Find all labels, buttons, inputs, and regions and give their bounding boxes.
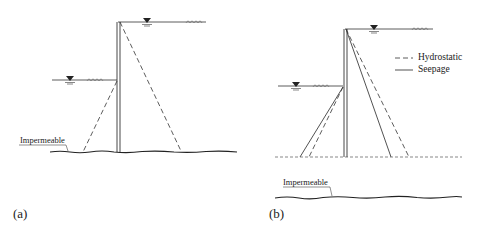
hydrostatic-line-upstream-b — [346, 29, 409, 157]
panel-caption-a: (a) — [13, 207, 27, 220]
seepage-line-upstream-b — [346, 29, 391, 157]
sheet-pile-wall-b — [344, 29, 347, 157]
sheet-pile-wall-a — [117, 22, 120, 152]
impermeable-label-a: Impermeable — [20, 136, 65, 145]
impermeable-leader-a — [19, 145, 68, 151]
impermeable-boundary-a — [50, 151, 237, 153]
legend-hydrostatic-label: Hydrostatic — [418, 53, 462, 63]
hydrostatic-line-upstream-a — [120, 22, 181, 151]
hydrostatic-line-downstream-a — [83, 81, 117, 152]
impermeable-label-b: Impermeable — [283, 178, 328, 187]
hydrostatic-line-downstream-b — [309, 87, 343, 157]
seepage-line-downstream-b — [300, 87, 343, 157]
panel-a — [19, 18, 237, 153]
legend-seepage-label: Seepage — [418, 65, 450, 75]
impermeable-boundary-b — [275, 196, 462, 199]
impermeable-leader-b — [283, 187, 332, 196]
panel-caption-b: (b) — [269, 207, 284, 220]
diagram-canvas — [0, 0, 478, 236]
